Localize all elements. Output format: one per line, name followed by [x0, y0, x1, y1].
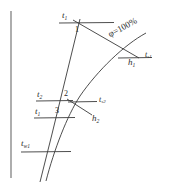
state-point-label-1: 1 — [75, 26, 79, 34]
label-h2: h2 — [92, 114, 99, 123]
process-line-lower-extension — [40, 134, 52, 182]
isotherm-line-tw1 — [21, 152, 71, 153]
label-t2: t2 — [37, 90, 42, 99]
diagram-canvas — [0, 0, 171, 189]
label-tw1: tw1 — [21, 139, 30, 148]
label-h1: h1 — [128, 58, 135, 67]
psychrometric-diagram: t1 φ=100% 1 h1 ts1 t2 2 ts2 t1 3 h2 tw1 — [0, 0, 171, 189]
isotherm-line-t1-top — [59, 23, 114, 24]
state-point-label-3: 3 — [55, 107, 59, 115]
label-t1-top: t1 — [62, 11, 67, 20]
saturation-curve-phi-100 — [46, 33, 146, 181]
label-ts1: ts1 — [145, 51, 152, 59]
process-line-1-to-3 — [52, 19, 80, 134]
state-point-label-2: 2 — [64, 90, 68, 98]
label-ts2: ts2 — [99, 96, 106, 104]
label-t1-mid: t1 — [35, 107, 40, 116]
isotherm-line-t1-mid — [34, 118, 75, 119]
isotherm-line-t2 — [36, 101, 73, 102]
